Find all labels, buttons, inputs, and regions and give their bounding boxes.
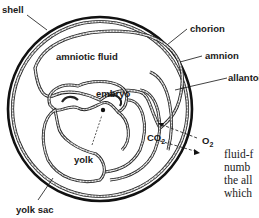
label-allantois: allantois: [228, 73, 259, 83]
label-o2: O2: [202, 136, 213, 148]
label-co2: CO2: [147, 133, 165, 145]
yolk-leader: [92, 115, 102, 145]
label-amnion: amnion: [205, 51, 239, 61]
yolk-sac-membrane: [43, 110, 104, 182]
body-text-line: the all: [224, 174, 253, 187]
label-yolk-sac: yolk sac: [16, 205, 54, 215]
body-text-fragment: fluid-f numb the all which: [224, 148, 253, 200]
label-shell: shell: [2, 5, 24, 15]
yolk-sac-leader: [38, 178, 53, 200]
label-yolk: yolk: [74, 155, 93, 165]
amnion-leader: [180, 56, 202, 62]
body-text-line: which: [224, 187, 253, 200]
label-chorion: chorion: [190, 24, 225, 34]
chorion-membrane: [13, 22, 188, 197]
label-embryo: embryo: [96, 89, 130, 99]
chorion-leader: [167, 29, 187, 45]
body-text-line: numb: [224, 161, 253, 174]
label-amniotic-fluid: amniotic fluid: [56, 52, 118, 62]
shell-leader: [27, 15, 47, 30]
body-text-line: fluid-f: [224, 148, 253, 161]
